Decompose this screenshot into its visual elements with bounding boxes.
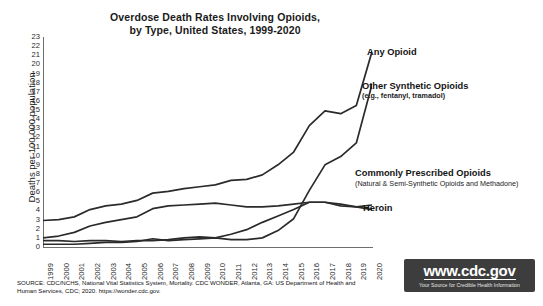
plot-area (43, 37, 372, 247)
x-tick-label: 2000 (62, 263, 71, 280)
y-tick-label: 0 (18, 243, 40, 251)
x-tick-label: 2002 (93, 263, 102, 280)
chart-title: Overdose Death Rates Involving Opioids, … (0, 11, 430, 37)
x-tick-label: 2011 (234, 264, 243, 280)
x-tick-label: 2007 (171, 263, 180, 280)
y-tick-label: 1 (18, 234, 40, 242)
y-tick-label: 18 (18, 79, 40, 87)
x-tick-label: 2008 (187, 263, 196, 280)
y-tick-label: 21 (18, 51, 40, 59)
y-tick-label: 5 (18, 197, 40, 205)
series-label-commonly-prescribed-opioids-text: Commonly Prescribed Opioids (355, 168, 491, 178)
y-tick-label: 16 (18, 97, 40, 105)
y-tick-label: 6 (18, 188, 40, 196)
cdc-logo-badge: www.cdc.gov Your Source for Credible Hea… (404, 259, 535, 292)
series-label-other-synthetic-opioids-text: Other Synthetic Opioids (362, 81, 468, 91)
cdc-tagline-text: Your Source for Credible Health Informat… (419, 282, 520, 288)
series-label-any-opioid: Any Opioid (367, 47, 417, 57)
x-tick-label: 2014 (281, 263, 290, 280)
x-tick-label: 2005 (140, 263, 149, 280)
y-tick-label: 12 (18, 133, 40, 141)
x-tick-label: 2013 (265, 263, 274, 280)
y-tick-label: 17 (18, 88, 40, 96)
x-tick-label: 2006 (156, 263, 165, 280)
source-note: SOURCE: CDC/NCHS, National Vital Statist… (17, 279, 357, 295)
chart-title-line-1: Overdose Death Rates Involving Opioids, (110, 11, 320, 23)
y-tick-label: 10 (18, 152, 40, 160)
y-tick-label: 4 (18, 206, 40, 214)
x-tick-label: 2015 (297, 263, 306, 280)
x-tick-label: 2018 (344, 263, 353, 280)
y-tick-label: 14 (18, 115, 40, 123)
series-line (43, 52, 372, 221)
y-tick-label: 3 (18, 216, 40, 224)
x-tick-label: 2003 (109, 263, 118, 280)
opioid-overdose-chart-figure: Overdose Death Rates Involving Opioids, … (0, 0, 543, 306)
y-tick-label: 8 (18, 170, 40, 178)
x-tick-label: 2016 (312, 263, 321, 280)
y-tick-label: 2 (18, 225, 40, 233)
x-tick-label: 1999 (46, 263, 55, 280)
series-line (43, 202, 372, 238)
x-tick-label: 2017 (328, 263, 337, 280)
y-tick-label: 9 (18, 161, 40, 169)
y-tick-label: 23 (18, 33, 40, 41)
y-tick-label: 15 (18, 106, 40, 114)
y-tick-label: 19 (18, 70, 40, 78)
x-tick-label: 2009 (203, 263, 212, 280)
x-tick-label: 2001 (77, 263, 86, 280)
x-axis-line (43, 247, 373, 248)
series-label-other-synthetic-opioids: Other Synthetic Opioids (e.g., fentanyl,… (362, 81, 468, 100)
series-line (43, 84, 372, 244)
series-label-heroin: Heroin (363, 203, 392, 213)
y-tick-label: 7 (18, 179, 40, 187)
y-tick-label: 11 (18, 143, 40, 151)
chart-title-line-2: by Type, United States, 1999-2020 (0, 24, 430, 37)
y-tick-label: 22 (18, 42, 40, 50)
series-label-any-opioid-text: Any Opioid (367, 47, 417, 57)
series-label-heroin-text: Heroin (363, 203, 392, 213)
series-label-commonly-prescribed-opioids: Commonly Prescribed Opioids (Natural & S… (355, 168, 518, 188)
x-tick-label: 2004 (124, 263, 133, 280)
y-tick-label: 20 (18, 60, 40, 68)
y-tick-label: 13 (18, 124, 40, 132)
cdc-url-text: www.cdc.gov (424, 263, 516, 280)
x-tick-label: 2010 (218, 263, 227, 280)
y-axis-tick-labels: 23222120191817161514131211109876543210 (16, 37, 40, 248)
series-label-other-synthetic-opioids-subtext: (e.g., fentanyl, tramadol) (362, 91, 468, 100)
series-label-commonly-prescribed-opioids-subtext: (Natural & Semi-Synthetic Opioids and Me… (355, 179, 518, 188)
x-tick-label: 2020 (375, 263, 384, 280)
source-note-line-2: Services, CDC; 2020. https://wonder.cdc.… (38, 287, 160, 294)
x-tick-label: 2019 (359, 263, 368, 280)
x-tick-label: 2012 (250, 263, 259, 280)
